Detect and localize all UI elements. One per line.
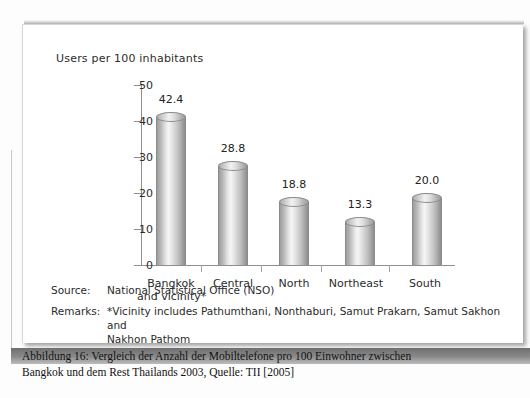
remarks-value-line2: Nakhon Pathom — [107, 332, 513, 346]
figure-caption-line2: Bangkok und dem Rest Thailands 2003, Que… — [22, 365, 502, 381]
chart-notes: Source: National Statistical Office (NSO… — [51, 283, 513, 353]
bar-bangkok-and-vicinity[interactable]: 42.4 — [156, 112, 186, 265]
bar-cylinder-body — [279, 202, 309, 265]
y-tick-mark-40 — [134, 121, 141, 122]
plot-area: 50 40 30 20 10 0 42.4 — [119, 81, 459, 273]
y-axis-line — [141, 85, 142, 265]
remarks-value: *Vicinity includes Pathumthani, Nonthabu… — [107, 304, 513, 346]
bar-south[interactable]: 20.0 — [412, 193, 442, 265]
bar-value-label: 20.0 — [415, 174, 440, 187]
bar-north[interactable]: 18.8 — [279, 197, 309, 265]
x-axis-line — [137, 265, 455, 266]
y-tick-mark-0 — [134, 265, 141, 266]
source-key: Source: — [51, 283, 107, 297]
y-tick-mark-30 — [134, 157, 141, 158]
bar-value-label: 18.8 — [282, 178, 307, 191]
bar-cylinder-body — [345, 222, 375, 265]
x-separator-2 — [261, 265, 262, 272]
bar-cylinder-body — [412, 198, 442, 265]
bar-central[interactable]: 28.8 — [218, 161, 248, 265]
bar-value-label: 42.4 — [159, 93, 184, 106]
bar-top-ellipse — [412, 193, 442, 203]
bar-cylinder-body — [218, 166, 248, 265]
x-separator-1 — [201, 265, 202, 272]
remarks-key: Remarks: — [51, 304, 107, 346]
sheet-left-edge-rule — [11, 150, 12, 350]
x-separator-3 — [321, 265, 322, 272]
y-tick-mark-10 — [134, 229, 141, 230]
y-tick-mark-50 — [134, 85, 141, 86]
bar-cylinder-body — [156, 117, 186, 265]
figure-panel: Users per 100 inhabitants 50 40 30 20 10… — [22, 24, 523, 343]
bar-northeast[interactable]: 13.3 — [345, 217, 375, 265]
y-tick-mark-20 — [134, 193, 141, 194]
figure-caption: Abbildung 16: Vergleich der Anzahl der M… — [22, 349, 502, 380]
source-row: Source: National Statistical Office (NSO… — [51, 283, 513, 297]
bar-value-label: 13.3 — [348, 198, 373, 211]
bar-chart: Users per 100 inhabitants 50 40 30 20 10… — [23, 25, 523, 273]
remarks-row: Remarks: *Vicinity includes Pathumthani,… — [51, 304, 513, 346]
remarks-value-line1: *Vicinity includes Pathumthani, Nonthabu… — [107, 305, 500, 331]
y-axis-title: Users per 100 inhabitants — [56, 52, 203, 65]
source-value: National Statistical Office (NSO) — [107, 283, 513, 297]
bar-value-label: 28.8 — [221, 142, 246, 155]
figure-caption-line1: Abbildung 16: Vergleich der Anzahl der M… — [22, 350, 411, 362]
x-separator-4 — [389, 265, 390, 272]
scanned-page: Users per 100 inhabitants 50 40 30 20 10… — [0, 0, 530, 398]
